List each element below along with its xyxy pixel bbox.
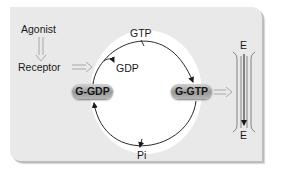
gdp-label: GDP [116,63,139,74]
effector-bottom-label: E [240,130,247,141]
effector-top-label: E [240,40,247,51]
receptor-label: Receptor [18,62,61,73]
agonist-receptor-arrow [36,37,46,61]
diagram-stage: Agonist Receptor GTP GDP Pi E E G-GDP G-… [0,0,286,177]
g-gtp-node: G-GTP [171,84,212,99]
receptor-cycle-arrow [72,62,92,72]
agonist-label: Agonist [21,24,56,35]
ggtp-effector-arrow [214,87,232,97]
g-gdp-node: G-GDP [72,84,113,99]
gtp-label: GTP [130,28,152,39]
pi-label: Pi [137,150,146,161]
